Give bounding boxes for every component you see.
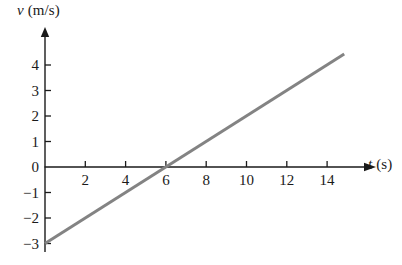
y-tick-label: 2: [0, 109, 39, 124]
plot-canvas: [0, 0, 402, 265]
x-axis-symbol: t: [368, 156, 372, 172]
x-tick-label: 2: [65, 173, 105, 188]
x-tick-label: 4: [106, 173, 146, 188]
x-axis-title: t (s): [368, 156, 392, 173]
y-tick-label: 0: [0, 160, 39, 175]
velocity-time-graph-figure: v (m/s) t (s) 246810121443210−1−2−3: [0, 0, 402, 265]
y-axis-title: v (m/s): [17, 2, 60, 19]
y-axis-unit: (m/s): [28, 2, 60, 18]
y-tick-label: −1: [0, 186, 39, 201]
data-line-group: [45, 54, 344, 243]
x-axis-unit: (s): [376, 156, 392, 172]
y-axis-symbol: v: [17, 2, 24, 18]
data-line-velocity: [45, 54, 344, 243]
y-axis-arrowhead: [41, 27, 49, 37]
x-tick-label: 6: [146, 173, 186, 188]
y-tick-label: 4: [0, 58, 39, 73]
y-tick-label: 3: [0, 84, 39, 99]
x-tick-label: 10: [227, 173, 267, 188]
y-tick-label: −2: [0, 211, 39, 226]
x-tick-label: 12: [267, 173, 307, 188]
y-tick-label: 1: [0, 135, 39, 150]
x-tick-label: 8: [186, 173, 226, 188]
y-tick-label: −3: [0, 237, 39, 252]
x-tick-label: 14: [307, 173, 347, 188]
